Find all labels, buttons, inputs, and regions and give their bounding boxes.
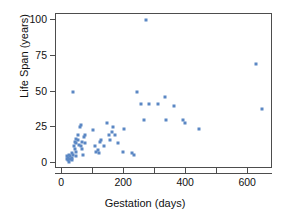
x-axis-tick-mark: [92, 168, 93, 173]
x-axis-tick-label: 200: [98, 177, 148, 188]
data-point: [82, 136, 85, 139]
data-point: [83, 142, 86, 145]
data-point: [197, 127, 200, 130]
data-point: [163, 96, 166, 99]
data-point: [123, 127, 126, 130]
x-axis-tick-mark: [154, 168, 155, 173]
data-point: [82, 153, 85, 156]
scatter-plot-figure: 0255075100 Life Span (years) 0200400600 …: [0, 0, 290, 219]
data-point: [103, 145, 106, 148]
data-point: [75, 150, 78, 153]
data-point: [107, 133, 110, 136]
data-point: [135, 90, 138, 93]
data-point: [172, 104, 175, 107]
data-point: [117, 142, 120, 145]
x-axis-tick-mark: [123, 168, 124, 173]
data-point: [144, 18, 147, 21]
data-point: [165, 119, 168, 122]
data-point: [79, 126, 82, 129]
x-axis-label: Gestation (days): [0, 197, 290, 209]
x-axis-tick-mark: [216, 168, 217, 173]
data-point: [261, 107, 264, 110]
data-point: [254, 63, 257, 66]
data-point: [121, 150, 124, 153]
data-point: [140, 103, 143, 106]
data-point: [84, 133, 87, 136]
data-point: [80, 147, 83, 150]
y-axis-tick-mark: [50, 91, 55, 92]
plot-area-frame: [55, 13, 272, 168]
y-axis-tick-label: 0: [7, 157, 47, 168]
data-points-layer: [56, 14, 271, 167]
data-point: [71, 156, 74, 159]
data-point: [183, 122, 186, 125]
x-axis-tick-mark: [185, 168, 186, 173]
data-point: [113, 133, 116, 136]
y-axis-tick-mark: [50, 162, 55, 163]
data-point: [77, 139, 80, 142]
x-axis-tick-label: 600: [222, 177, 272, 188]
data-point: [93, 145, 96, 148]
data-point: [99, 139, 102, 142]
data-point: [112, 126, 115, 129]
data-point: [148, 103, 151, 106]
data-point: [157, 103, 160, 106]
x-axis-tick-mark: [247, 168, 248, 173]
x-axis-line: [55, 173, 272, 174]
x-axis-tick-label: 400: [160, 177, 210, 188]
data-point: [109, 139, 112, 142]
data-point: [76, 133, 79, 136]
data-point: [106, 122, 109, 125]
data-point: [143, 119, 146, 122]
data-point: [98, 152, 101, 155]
y-axis-tick-mark: [50, 19, 55, 20]
data-point: [70, 159, 73, 162]
data-point: [75, 155, 78, 158]
data-point: [132, 153, 135, 156]
data-point: [92, 129, 95, 132]
x-axis-tick-label: 0: [36, 177, 86, 188]
y-axis-tick-mark: [50, 55, 55, 56]
data-point: [79, 123, 82, 126]
data-point: [72, 90, 75, 93]
y-axis-label: Life Span (years): [18, 0, 30, 126]
y-axis-tick-mark: [50, 126, 55, 127]
x-axis-tick-mark: [61, 168, 62, 173]
